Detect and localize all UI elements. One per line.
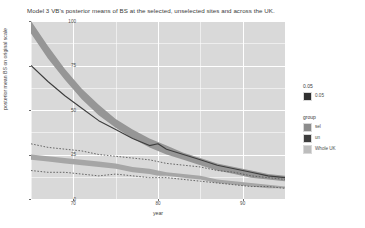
legend-swatch-icon — [303, 145, 312, 154]
plot-panel — [31, 21, 285, 199]
legend-group: groupselunWhole UK — [303, 114, 336, 155]
legend-swatch-icon — [303, 134, 312, 143]
legend-swatch-icon — [303, 92, 312, 101]
y-axis-tick-label: 25 — [71, 152, 76, 157]
legend-item[interactable]: sel — [303, 122, 336, 132]
x-axis-tick-label: 70 — [71, 201, 76, 206]
y-axis-tick-label: 100 — [68, 19, 76, 24]
x-axis-tick-mark — [73, 199, 74, 201]
y-axis-title: posterior mean BS on original scale — [2, 28, 8, 110]
y-axis-tick-mark — [29, 66, 31, 67]
chart-root: Model 3 VB's posterior means of BS at th… — [0, 0, 365, 228]
y-axis-tick-mark — [29, 155, 31, 156]
x-axis-tick-label: 90 — [240, 201, 245, 206]
y-axis-tick-mark — [29, 110, 31, 111]
legend-title: 0.05 — [303, 83, 324, 89]
legend-title: group — [303, 114, 336, 120]
x-axis-tick-mark — [158, 199, 159, 201]
legend-item-label: un — [315, 135, 320, 141]
series-ribbon — [31, 21, 285, 181]
legend-alpha: 0.050.05 — [303, 83, 324, 102]
x-axis-tick-label: 80 — [155, 201, 160, 206]
x-axis-tick-mark — [243, 199, 244, 201]
y-axis-tick-mark — [29, 199, 31, 200]
legend-item[interactable]: un — [303, 133, 336, 143]
legend-swatch-icon — [303, 123, 312, 132]
legend-item-label: 0.05 — [315, 93, 324, 99]
x-axis-title: year — [31, 210, 285, 216]
chart-title: Model 3 VB's posterior means of BS at th… — [27, 6, 275, 15]
legend-item[interactable]: Whole UK — [303, 144, 336, 154]
legend-item[interactable]: 0.05 — [303, 91, 324, 101]
legend-item-label: sel — [315, 124, 321, 130]
legend-item-label: Whole UK — [315, 146, 336, 152]
plot-series-layer — [31, 21, 285, 199]
y-axis-tick-label: 75 — [71, 63, 76, 68]
y-axis-tick-label: 50 — [71, 108, 76, 113]
y-axis-tick-mark — [29, 21, 31, 22]
